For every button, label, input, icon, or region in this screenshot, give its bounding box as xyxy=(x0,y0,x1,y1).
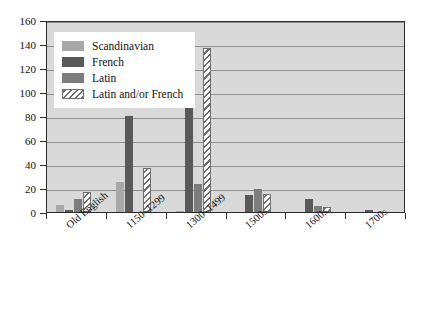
y-tick-mark xyxy=(40,141,46,142)
bar-group xyxy=(346,22,406,212)
chart-legend: Scandinavian French Latin Latin and/or F… xyxy=(54,32,195,108)
y-tick-mark xyxy=(40,165,46,166)
y-tick-label: 80 xyxy=(25,112,36,123)
y-tick-mark xyxy=(40,45,46,46)
y-tick-label: 0 xyxy=(31,208,37,219)
x-axis: Old English1150–12991300–14991500s1600s1… xyxy=(46,213,405,221)
legend-item: French xyxy=(62,54,183,70)
bar-group xyxy=(227,22,287,212)
legend-label-scandinavian: Scandinavian xyxy=(92,40,154,52)
y-tick-label: 60 xyxy=(25,136,36,147)
bar-latin-and-or-french xyxy=(203,48,211,212)
legend-swatch-latin xyxy=(62,73,84,83)
y-tick-mark xyxy=(40,117,46,118)
y-tick-label: 40 xyxy=(25,160,36,171)
bar-scandinavian xyxy=(176,211,184,213)
legend-label-latin-and-or-french: Latin and/or French xyxy=(92,88,183,100)
bar-french xyxy=(245,195,253,212)
y-tick-mark xyxy=(40,21,46,22)
legend-swatch-latin-and-or-french xyxy=(62,89,84,99)
bar-scandinavian xyxy=(56,205,64,212)
legend-item: Latin xyxy=(62,70,183,86)
bar-french xyxy=(65,210,73,212)
legend-label-latin: Latin xyxy=(92,72,116,84)
x-tick-mark xyxy=(46,213,47,219)
x-tick-mark xyxy=(405,213,406,219)
legend-item: Scandinavian xyxy=(62,38,183,54)
legend-item: Latin and/or French xyxy=(62,86,183,102)
legend-swatch-french xyxy=(62,57,84,67)
x-tick-mark xyxy=(166,213,167,219)
y-tick-mark xyxy=(40,69,46,70)
bar-chart: 020406080100120140160 Old English1150–12… xyxy=(0,0,430,310)
y-tick-label: 120 xyxy=(20,64,37,75)
legend-label-french: French xyxy=(92,56,124,68)
y-tick-label: 140 xyxy=(20,40,37,51)
bar-french xyxy=(125,116,133,212)
bar-french xyxy=(305,199,313,212)
y-tick-label: 160 xyxy=(20,16,37,27)
x-tick-mark xyxy=(285,213,286,219)
y-tick-mark xyxy=(40,93,46,94)
bar-scandinavian xyxy=(116,182,124,212)
y-axis: 020406080100120140160 xyxy=(0,0,46,214)
x-tick-mark xyxy=(106,213,107,219)
y-tick-label: 100 xyxy=(20,88,37,99)
x-tick-mark xyxy=(345,213,346,219)
y-tick-mark xyxy=(40,189,46,190)
legend-swatch-scandinavian xyxy=(62,41,84,51)
bar-french xyxy=(365,210,373,212)
bar-group xyxy=(286,22,346,212)
x-tick-mark xyxy=(226,213,227,219)
y-tick-label: 20 xyxy=(25,184,36,195)
